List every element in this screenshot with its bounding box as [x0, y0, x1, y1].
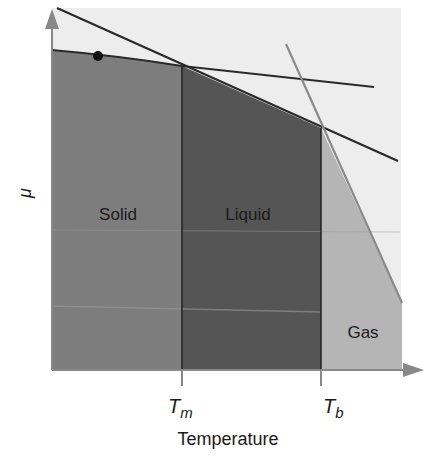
gas-label: Gas — [347, 323, 378, 342]
liquid-label: Liquid — [225, 205, 270, 224]
x-axis-label: Temperature — [177, 429, 278, 449]
tm-label: Tm — [168, 395, 193, 421]
y-axis-label: μ — [15, 188, 35, 199]
solid-label: Solid — [99, 205, 137, 224]
x-axis-arrow-icon — [403, 363, 424, 377]
phase-diagram: Solid Liquid Gas Tm Tb Temperature μ — [0, 0, 428, 462]
tb-label: Tb — [323, 395, 344, 421]
state-point — [93, 51, 103, 61]
